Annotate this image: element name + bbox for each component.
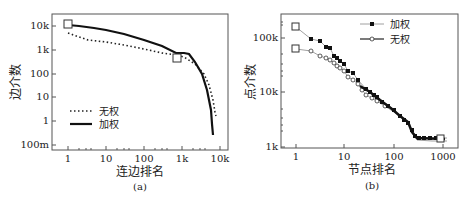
x-tick-label: 10 (338, 151, 351, 162)
caption-a: (a) (133, 181, 147, 192)
panel-a: 10k 1k 100 10 1 100m 1 10 100 1k 10k 连边排… (8, 14, 230, 192)
legend-b: 加权 无权 (360, 18, 410, 45)
y-tick-label: 10k (259, 86, 279, 97)
series-unweighted-a (68, 33, 216, 116)
series-unweighted-b (296, 49, 447, 141)
series-weighted-a (68, 25, 213, 135)
y-tick-label: 100 (30, 68, 49, 79)
y-axis-label-a: 边介数 (8, 64, 23, 100)
legend-label-weighted: 加权 (99, 118, 119, 130)
x-ticks-a (68, 146, 220, 150)
plot-frame-a (52, 14, 228, 150)
legend-label-weighted: 加权 (390, 18, 410, 30)
x-tick-label: 1k (176, 153, 189, 164)
plot-frame-b (281, 14, 458, 148)
y-tick-label: 1 (43, 115, 49, 126)
open-square-marker (64, 20, 72, 28)
x-tick-label: 1000 (430, 151, 455, 162)
x-tick-label: 10 (100, 153, 113, 164)
x-tick-label: 10k (211, 153, 231, 164)
caption-b: (b) (365, 180, 379, 191)
figure: 10k 1k 100 10 1 100m 1 10 100 1k 10k 连边排… (0, 0, 474, 203)
y-axis-label-b: 点介数 (243, 64, 258, 100)
open-square-marker (437, 135, 444, 142)
dense-tail-band (360, 86, 445, 139)
unweighted-markers (309, 49, 387, 108)
x-tick-label: 1 (65, 153, 71, 164)
y-tick-label: 100m (20, 139, 49, 150)
y-tick-label: 10 (36, 91, 49, 102)
legend-filled-square-icon (370, 22, 374, 26)
weighted-markers (309, 37, 438, 140)
series-weighted-b (296, 27, 447, 138)
x-tick-label: 100 (134, 153, 153, 164)
y-ticks-b (281, 22, 285, 147)
legend-a: 无权 加权 (70, 105, 119, 130)
y-tick-label: 1k (266, 141, 279, 152)
panel-b: 100k 10k 1k 1 10 100 1000 节点排名 点介数 (b) (243, 14, 458, 191)
open-square-marker (173, 54, 181, 62)
x-ticks-b (296, 144, 443, 148)
y-tick-label: 10k (30, 20, 50, 31)
open-square-marker (292, 23, 299, 30)
open-square-marker (292, 45, 299, 52)
legend-open-circle-icon (370, 37, 374, 41)
x-axis-label-a: 连边排名 (116, 164, 164, 179)
y-tick-label: 100k (253, 32, 279, 43)
y-ticks-a (52, 26, 56, 145)
y-tick-label: 1k (37, 44, 50, 55)
legend-label-unweighted: 无权 (390, 33, 410, 45)
x-axis-label-b: 节点排名 (348, 162, 396, 177)
legend-label-unweighted: 无权 (99, 105, 119, 117)
x-tick-label: 1 (293, 151, 299, 162)
x-tick-label: 100 (384, 151, 403, 162)
